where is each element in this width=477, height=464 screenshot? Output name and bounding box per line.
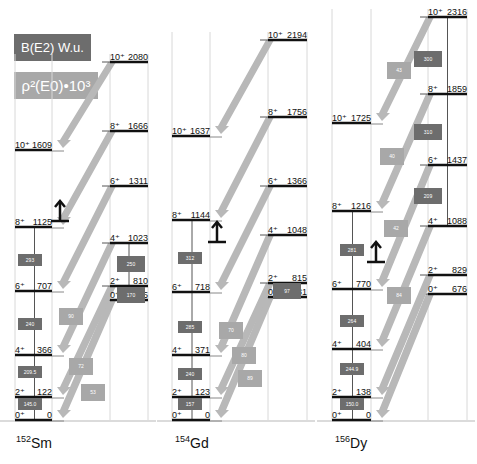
level-energy: 122 [37, 387, 52, 397]
level-energy: 810 [133, 276, 148, 286]
level-spin: 0⁺ [428, 284, 438, 294]
level-spin: 0⁺ [15, 410, 25, 420]
level-spin: 2⁺ [268, 273, 278, 283]
level-spin: 0⁺ [332, 410, 342, 420]
svg-text:293: 293 [26, 257, 35, 263]
level-spin: 8⁺ [15, 217, 25, 227]
level-spin: 10⁺ [172, 126, 187, 136]
level-spin: 8⁺ [332, 201, 342, 211]
level-spin: 6⁺ [110, 176, 120, 186]
level-energy: 1144 [191, 210, 210, 220]
level-spin: 2⁺ [110, 276, 120, 286]
level-spin: 10⁺ [268, 30, 283, 40]
level-energy: 1048 [287, 225, 307, 235]
e0-transition-arrow [376, 294, 434, 418]
svg-text:240: 240 [186, 371, 195, 377]
level-spin: 4⁺ [428, 216, 438, 226]
nucleus-gd: 0⁺02⁺1234⁺3716⁺7188⁺114410⁺16370⁺6812⁺81… [157, 30, 315, 421]
level-scheme-svg: 0⁺02⁺1224⁺3666⁺7078⁺112510⁺16090⁺6852⁺81… [0, 0, 477, 464]
level-spin: 6⁺ [15, 281, 25, 291]
level-spin: 6⁺ [332, 279, 342, 289]
level-spin: 6⁺ [428, 155, 438, 165]
level-energy: 1125 [33, 217, 52, 227]
level-energy: 366 [37, 345, 52, 355]
level-spin: 0⁺ [172, 410, 182, 420]
level-spin: 10⁺ [15, 140, 30, 150]
svg-text:264: 264 [348, 318, 357, 324]
nucleus-dy: 0⁺02⁺1384⁺4046⁺7708⁺121610⁺17250⁺6762⁺82… [317, 7, 475, 421]
svg-text:170: 170 [127, 292, 136, 298]
level-energy: 1666 [128, 121, 148, 131]
level-energy: 1637 [190, 126, 210, 136]
svg-text:240: 240 [26, 321, 35, 327]
level-spin: 2⁺ [172, 387, 182, 397]
up-arrow-icon [208, 222, 226, 242]
nucleus-sm: 0⁺02⁺1224⁺3666⁺7078⁺112510⁺16090⁺6852⁺81… [0, 52, 156, 421]
svg-text:89: 89 [247, 375, 253, 381]
level-spin: 4⁺ [268, 225, 278, 235]
level-energy: 1437 [447, 155, 467, 165]
svg-text:209: 209 [424, 193, 433, 199]
svg-text:42: 42 [393, 225, 399, 231]
svg-text:312: 312 [186, 255, 195, 261]
level-energy: 770 [356, 279, 371, 289]
svg-text:209.5: 209.5 [24, 369, 37, 375]
level-energy: 815 [292, 273, 307, 283]
level-energy: 1311 [129, 176, 148, 186]
svg-text:90: 90 [68, 313, 74, 319]
level-energy: 1366 [287, 176, 307, 186]
level-energy: 1609 [32, 140, 52, 150]
svg-text:145.0: 145.0 [24, 401, 37, 407]
nucleus-label-dy156: 156Dy [335, 434, 367, 451]
svg-text:250: 250 [127, 261, 136, 267]
level-spin: 4⁺ [172, 345, 182, 355]
level-energy: 138 [356, 387, 371, 397]
level-energy: 707 [37, 281, 52, 291]
svg-text:53: 53 [90, 389, 96, 395]
svg-text:70: 70 [228, 327, 234, 333]
level-energy: 123 [195, 387, 210, 397]
level-energy: 718 [195, 282, 210, 292]
level-energy: 1725 [351, 113, 371, 123]
level-spin: 8⁺ [268, 107, 278, 117]
svg-text:157: 157 [186, 401, 195, 407]
level-energy: 2316 [447, 7, 467, 17]
svg-text:285: 285 [186, 324, 195, 330]
e0-transition-arrow [57, 186, 116, 289]
level-spin: 2⁺ [332, 387, 342, 397]
level-spin: 4⁺ [15, 345, 25, 355]
level-spin: 8⁺ [428, 84, 438, 94]
level-energy: 1859 [447, 84, 467, 94]
level-spin: 10⁺ [110, 52, 125, 62]
level-energy: 0 [47, 410, 52, 420]
up-arrow-icon [367, 242, 385, 262]
level-energy: 404 [356, 339, 371, 349]
level-spin: 6⁺ [268, 176, 278, 186]
level-spin: 2⁺ [428, 265, 438, 275]
level-spin: 4⁺ [110, 233, 120, 243]
level-spin: 6⁺ [172, 282, 182, 292]
svg-text:310: 310 [424, 129, 433, 135]
level-spin: 2⁺ [15, 387, 25, 397]
svg-text:244.9: 244.9 [346, 366, 359, 372]
nucleus-label-gd154: 154Gd [175, 434, 209, 451]
level-spin: 8⁺ [110, 121, 120, 131]
level-energy: 1216 [351, 201, 371, 211]
level-energy: 371 [195, 345, 210, 355]
svg-text:72: 72 [78, 363, 84, 369]
level-spin: 8⁺ [172, 210, 182, 220]
level-energy: 0 [205, 410, 210, 420]
level-energy: 2194 [287, 30, 307, 40]
level-energy: 829 [452, 265, 467, 275]
svg-text:40: 40 [389, 153, 395, 159]
level-energy: 0 [366, 410, 371, 420]
svg-text:84: 84 [396, 292, 402, 298]
svg-text:43: 43 [396, 67, 402, 73]
svg-text:80: 80 [241, 352, 247, 358]
svg-text:300: 300 [424, 56, 433, 62]
level-scheme-diagram: B(E2) W.u. ρ²(E0)•10³ 0⁺02⁺1224⁺3666⁺707… [0, 0, 477, 464]
level-energy: 676 [452, 284, 467, 294]
level-energy: 1023 [128, 233, 148, 243]
nucleus-label-sm152: 152Sm [16, 434, 52, 451]
level-energy: 2080 [128, 52, 148, 62]
